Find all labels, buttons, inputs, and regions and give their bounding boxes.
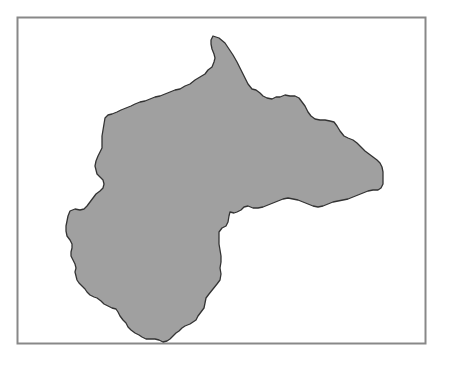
map-canvas [0, 0, 474, 387]
